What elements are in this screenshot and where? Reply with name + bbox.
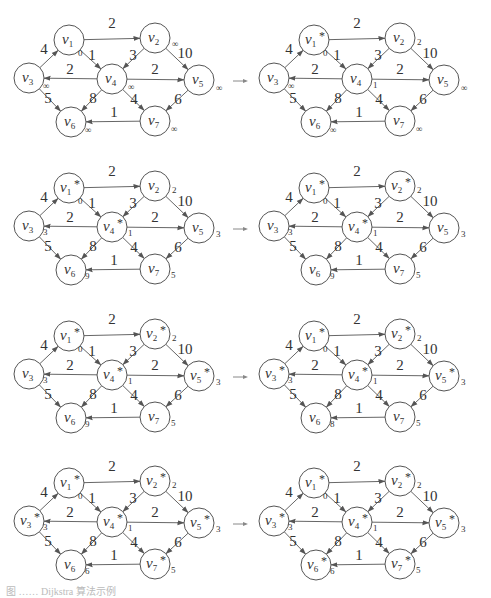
edge-weight-label: 6 [419, 239, 427, 255]
edge-v5-v7: 6 [166, 90, 188, 111]
node-v4: v4*1 [342, 507, 378, 537]
node-v3: v3∞ [259, 63, 294, 93]
edge-v4-v7: 4 [123, 532, 145, 553]
distance-label: 1 [128, 228, 133, 238]
edge-weight-label: 8 [334, 386, 342, 402]
transition-arrow-icon [233, 375, 248, 379]
edge-v1-v4: 1 [325, 490, 346, 512]
edge-weight-label: 2 [108, 458, 116, 474]
edge-v2-v5: 10 [166, 45, 193, 70]
known-star-marker: * [319, 177, 325, 191]
edge-weight-label: 1 [88, 490, 96, 506]
known-star-marker: * [449, 365, 455, 379]
node-v7: v7*5 [140, 549, 176, 579]
edge-v4-v7: 4 [123, 385, 145, 406]
node-v7: v75 [385, 402, 421, 432]
edge-weight-label: 1 [110, 400, 118, 416]
edge-weight-label: 4 [40, 41, 48, 57]
node-v7: v7∞ [140, 106, 177, 136]
node-v7: v75 [140, 402, 176, 432]
node-v2: v2*2 [385, 171, 422, 201]
edge-v1-v2: 2 [84, 311, 140, 336]
distance-label: 0 [78, 196, 83, 206]
edge-v4-v6: 8 [81, 533, 101, 554]
node-v6: v68 [301, 403, 335, 433]
known-star-marker: * [319, 325, 325, 339]
edge-weight-label: 1 [355, 400, 363, 416]
distance-label: 6 [85, 566, 90, 576]
distance-label: 3 [288, 522, 293, 532]
edge-weight-label: 5 [289, 386, 297, 402]
edge-v4-v3: 2 [44, 357, 97, 375]
node-v6: v69 [301, 255, 335, 285]
edge-weight-label: 8 [89, 238, 97, 254]
edge-weight-label: 1 [333, 47, 341, 63]
edge-v2-v4: 3 [368, 490, 389, 512]
edge-v5-v7: 6 [166, 386, 188, 407]
node-v6: v6∞ [56, 107, 91, 137]
edge-weight-label: 1 [355, 547, 363, 563]
node-v2: v2*2 [140, 319, 177, 349]
edge-v4-v7: 4 [123, 89, 145, 110]
edge-v3-v6: 5 [284, 89, 305, 111]
graph-panel-step-3: 2413102258461v1*0v22v33v4*1v53v69v75 [14, 163, 248, 285]
edge-v4-v3: 2 [289, 61, 342, 79]
edge-weight-label: 2 [311, 61, 319, 77]
edge-v4-v6: 8 [326, 238, 346, 259]
distance-label: ∞ [416, 124, 422, 134]
edge-weight-label: 2 [66, 209, 74, 225]
node-v4: v4*1 [97, 507, 133, 537]
distance-label: ∞ [172, 39, 178, 49]
edge-weight-label: 2 [353, 15, 361, 31]
node-v3: v3*3 [259, 359, 293, 389]
transition-arrow-icon [233, 522, 248, 526]
edge-v5-v7: 6 [166, 533, 188, 554]
edge-weight-label: 4 [375, 239, 383, 255]
edge-v1-v2: 2 [329, 311, 385, 336]
distance-label: 2 [417, 333, 422, 343]
edge-v4-v7: 4 [123, 237, 145, 258]
edge-v3-v6: 5 [39, 532, 60, 554]
edge-weight-label: 4 [40, 484, 48, 500]
edge-v5-v7: 6 [411, 90, 433, 111]
edge-weight-label: 2 [353, 163, 361, 179]
distance-label: 1 [373, 228, 378, 238]
known-star-marker: * [160, 470, 166, 484]
edge-weight-label: 6 [419, 387, 427, 403]
graph-panel-step-6: 2413102258461v1*0v2*2v3*3v4*1v5*3v68v75 [259, 311, 466, 433]
edge-v2-v5: 10 [411, 341, 438, 366]
edge-weight-label: 2 [396, 209, 404, 225]
edge-weight-label: 1 [355, 104, 363, 120]
edge-v4-v3: 2 [289, 209, 342, 227]
distance-label: ∞ [171, 124, 177, 134]
edge-weight-label: 4 [285, 337, 293, 353]
edge-v2-v5: 10 [166, 488, 193, 513]
distance-label: 2 [417, 480, 422, 490]
distance-label: 0 [78, 344, 83, 354]
edge-weight-label: 6 [419, 534, 427, 550]
node-v3: v33 [259, 211, 293, 241]
node-v4: v4*1 [97, 212, 133, 242]
distance-label: 3 [461, 229, 466, 239]
edge-v2-v4: 3 [123, 343, 144, 365]
edge-weight-label: 2 [66, 504, 74, 520]
node-v5: v5*3 [429, 361, 466, 391]
edge-weight-label: 6 [174, 387, 182, 403]
node-v2: v22 [140, 171, 177, 201]
node-v6: v66 [56, 550, 90, 580]
edge-weight-label: 5 [44, 533, 52, 549]
edge-v2-v5: 10 [411, 488, 438, 513]
known-star-marker: * [321, 554, 327, 568]
figure-caption: 图 …… Dijkstra 算法示例 [6, 583, 116, 598]
distance-label: 1 [128, 523, 133, 533]
edge-v3-v6: 5 [284, 237, 305, 259]
edge-weight-label: 6 [174, 91, 182, 107]
node-v5: v53 [184, 213, 221, 243]
node-v6: v69 [56, 255, 90, 285]
edge-v4-v5: 2 [127, 357, 184, 376]
distance-label: 3 [216, 377, 221, 387]
edge-v1-v2: 2 [329, 15, 385, 40]
known-star-marker: * [204, 365, 210, 379]
edge-weight-label: 1 [110, 252, 118, 268]
node-v5: v5∞ [184, 65, 222, 95]
